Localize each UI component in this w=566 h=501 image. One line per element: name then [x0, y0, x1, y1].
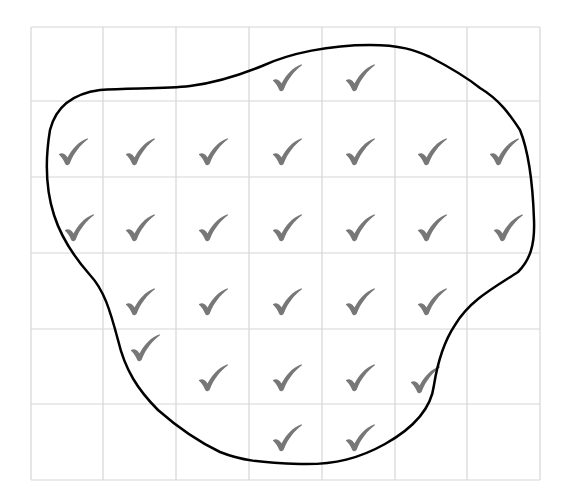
freeform-outline	[0, 0, 566, 501]
grid-diagram	[0, 0, 566, 501]
outline-path	[47, 45, 534, 464]
